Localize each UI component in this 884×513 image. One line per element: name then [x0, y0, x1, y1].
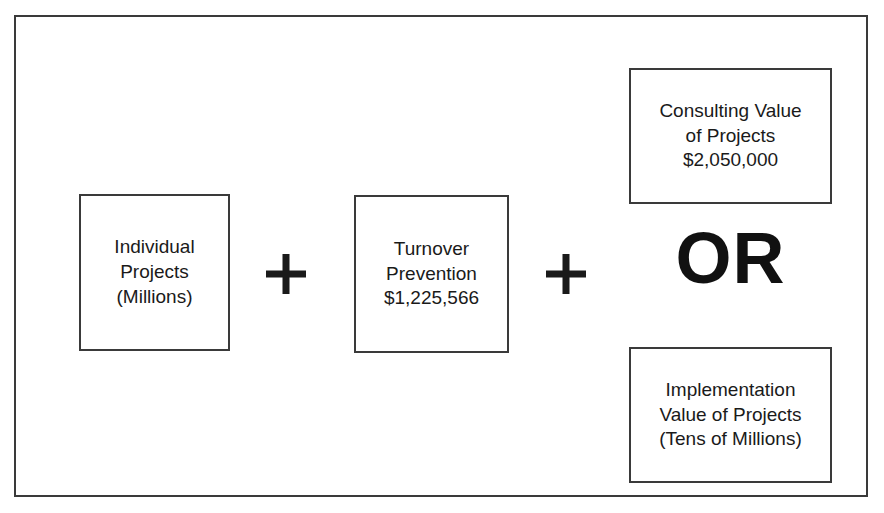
node-consulting-value-line-1: Consulting Value [659, 99, 801, 124]
node-implementation-value-line-3: (Tens of Millions) [659, 427, 802, 452]
node-consulting-value-amount: $2,050,000 [683, 148, 778, 173]
node-consulting-value: Consulting Value of Projects $2,050,000 [629, 68, 832, 204]
plus-operator-icon-2 [546, 254, 586, 294]
node-implementation-value-line-1: Implementation [666, 378, 796, 403]
figure-canvas: Individual Projects (Millions) Turnover … [0, 0, 884, 513]
node-individual-projects: Individual Projects (Millions) [79, 194, 230, 351]
node-implementation-value: Implementation Value of Projects (Tens o… [629, 347, 832, 483]
node-turnover-prevention-value: $1,225,566 [384, 286, 479, 311]
node-implementation-value-line-2: Value of Projects [659, 403, 801, 428]
node-consulting-value-line-2: of Projects [686, 124, 776, 149]
figure-outer-frame: Individual Projects (Millions) Turnover … [14, 15, 868, 497]
node-turnover-prevention-line-2: Prevention [386, 262, 477, 287]
node-individual-projects-line-1: Individual [114, 235, 194, 260]
or-branch-label: OR [629, 222, 832, 294]
plus-operator-icon-1 [266, 254, 306, 294]
node-turnover-prevention: Turnover Prevention $1,225,566 [354, 195, 509, 353]
node-individual-projects-line-2: Projects [120, 260, 189, 285]
node-turnover-prevention-line-1: Turnover [394, 237, 469, 262]
node-individual-projects-line-3: (Millions) [117, 285, 193, 310]
